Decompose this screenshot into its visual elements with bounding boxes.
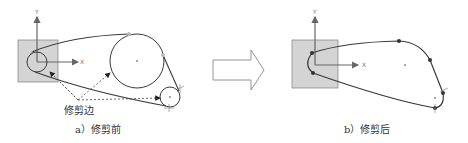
right-tangent-line [163,55,179,91]
figure-a [18,17,184,112]
axis-x-label-a: X [80,58,84,65]
axis-y-label-a: Y [35,8,39,15]
trim-edge-leaders [50,72,160,100]
axis-y-label-b: Y [313,8,317,15]
axis-x-label-b: X [362,61,366,68]
right-arrow-icon [213,50,264,90]
caption-b: b）修剪后 [344,121,390,136]
figure-b [292,17,448,113]
origin-square [18,40,58,82]
trim-edge-label: 修剪边 [64,102,94,117]
diagram-canvas [0,0,468,143]
caption-a: a）修剪前 [75,121,121,136]
